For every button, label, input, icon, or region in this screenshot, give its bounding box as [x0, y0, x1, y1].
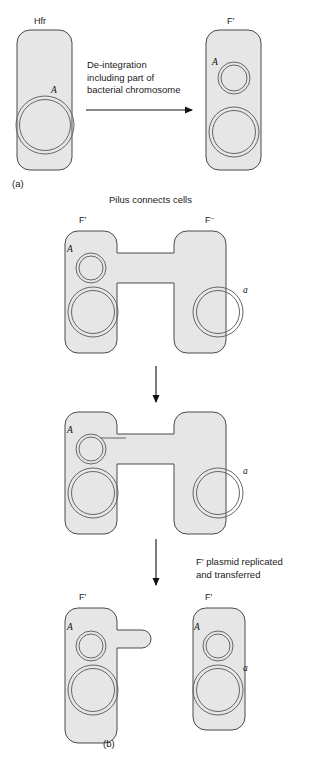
stage1-right-cell-type-label: F⁻ — [205, 215, 216, 225]
stage1-right-gene-label: a — [243, 285, 248, 295]
figure-canvas: Hfr A F′ A De-integration including part… — [0, 0, 312, 766]
fprime-cell-type-label: F′ — [227, 16, 234, 26]
pilus-caption: Pilus connects cells — [109, 194, 192, 207]
hfr-gene-a-label: A — [51, 85, 57, 95]
hfr-cell-type-label: Hfr — [34, 16, 46, 26]
panel-b-stage1 — [65, 231, 243, 353]
panel-a-fprime-cell — [206, 30, 261, 170]
stage1-left-cell-type-label: F′ — [79, 215, 86, 225]
stage3-left-cell-type-label: F′ — [79, 592, 86, 602]
stage3-right-cell-type-label: F′ — [205, 592, 212, 602]
panel-a-hfr-cell — [16, 30, 74, 170]
stage3-left-gene-label: A — [67, 622, 73, 632]
fprime-gene-a-label: A — [212, 57, 218, 67]
panel-b-id: (b) — [103, 738, 115, 749]
stage3-right-gene-top-label: A — [194, 622, 200, 632]
stage1-left-gene-label: A — [67, 244, 73, 254]
stage2-right-gene-label: a — [243, 466, 248, 476]
panel-b-stage2 — [65, 412, 243, 534]
detached-pilus-stub — [65, 608, 151, 743]
stage1-conjugating-pair — [65, 231, 226, 353]
diagram-svg — [0, 0, 312, 766]
stage2-left-gene-label: A — [67, 425, 73, 435]
panel-a-arrow-caption: De-integration including part of bacteri… — [87, 59, 180, 97]
stage3-right-gene-bottom-label: a — [243, 663, 248, 673]
panel-a-id: (a) — [12, 178, 24, 189]
panel-b-arrow-2-caption: F′ plasmid replicated and transferred — [196, 556, 283, 581]
panel-b-stage3-left-cell — [65, 608, 151, 743]
panel-b-stage3-right-cell — [193, 608, 245, 730]
